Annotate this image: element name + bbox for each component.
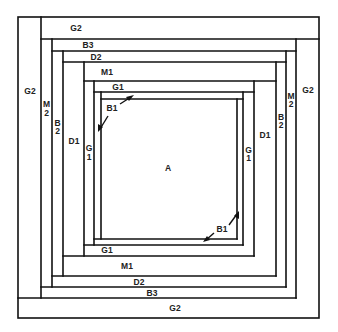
label-top-d2: D2 [91,52,102,62]
label-left-b2-bottom: 2 [55,126,60,136]
label-right-b2-bottom: 2 [279,120,284,130]
label-left-g2: G2 [24,86,36,96]
label-right-d1: D1 [260,130,271,140]
label-bottom-g2: G2 [169,303,181,313]
label-left-m2-bottom: 2 [44,108,49,118]
callout-b1-top-left: B1 [98,95,134,132]
label-bottom-b3: B3 [147,288,158,298]
label-callout-b1-top: B1 [107,103,118,113]
labels-left: G2 M 2 B 2 D1 G 1 [24,86,92,162]
label-top-g2: G2 [70,23,82,33]
label-callout-b1-bottom: B1 [217,224,228,234]
label-center-a: A [165,163,171,173]
log-cabin-diagram: G2 B3 D2 M1 G1 G1 M1 D2 B3 G2 G2 M 2 B 2… [0,0,338,332]
labels-right: G2 M 2 B 2 D1 G 1 [245,85,314,163]
label-bottom-d2: D2 [134,277,145,287]
callout-b1-bottom-right: B1 [203,211,239,242]
label-bottom-g1: G1 [101,245,113,255]
label-right-m2-bottom: 2 [289,99,294,109]
label-left-g1-bottom: 1 [87,152,92,162]
label-left-d1: D1 [69,136,80,146]
label-top-m1: M1 [101,67,113,77]
label-right-g1-bottom: 1 [246,153,251,163]
label-top-b3: B3 [83,40,94,50]
label-top-g1: G1 [112,82,124,92]
label-bottom-m1: M1 [121,261,133,271]
label-right-g2: G2 [302,85,314,95]
